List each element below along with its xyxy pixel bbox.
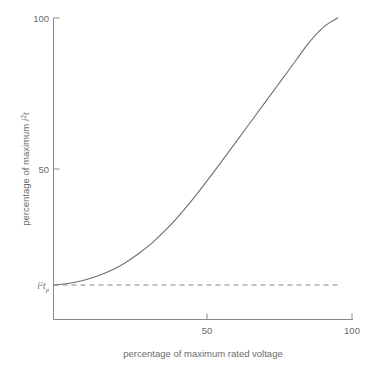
svg-text:percentage of maximum i2t: percentage of maximum i2t [20,112,31,226]
y-axis-title-prefix: percentage of maximum [20,121,31,226]
y-axis-title-suffix: t [21,112,31,115]
threshold-subscript: p [45,286,50,293]
threshold-annotation-label: i2tp [37,280,50,293]
x-axis-title: percentage of maximum rated voltage [123,348,282,359]
chart-figure: 100 50 percentage of maximum i2t 50 100 … [0,0,381,374]
y-axis-title: percentage of maximum i2t [20,112,31,226]
x-tick-label-50: 50 [202,325,213,336]
x-tick-label-100: 100 [344,325,360,336]
data-curve [54,18,338,285]
chart-svg: 100 50 percentage of maximum i2t 50 100 … [0,0,381,374]
y-tick-label-100: 100 [33,13,49,24]
y-tick-label-50: 50 [38,164,49,175]
